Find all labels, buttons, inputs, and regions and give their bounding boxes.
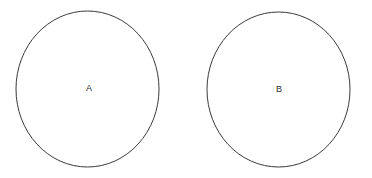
- circle-a-label: A: [86, 84, 92, 93]
- circle-b-label: B: [276, 85, 282, 94]
- diagram-canvas: A B: [0, 0, 372, 178]
- diagram-svg: [0, 0, 372, 178]
